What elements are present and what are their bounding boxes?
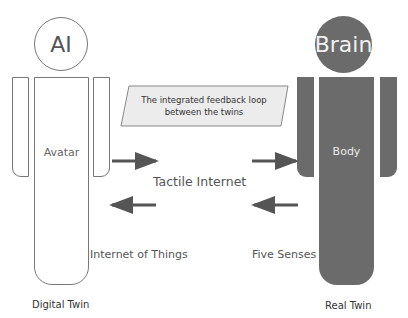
internet-of-things-label: Internet of Things bbox=[90, 248, 188, 261]
arrows-layer bbox=[0, 0, 408, 318]
tactile-internet-label: Tactile Internet bbox=[153, 174, 246, 189]
five-senses-label: Five Senses bbox=[252, 248, 316, 261]
